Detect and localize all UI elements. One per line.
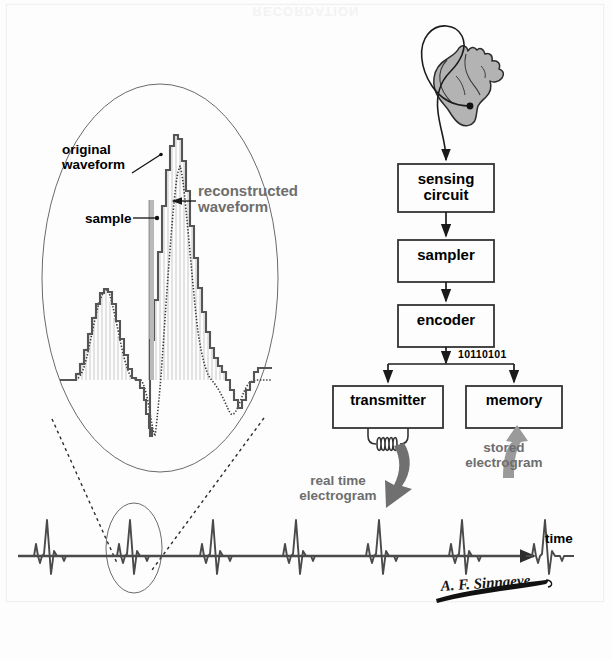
peak-shading <box>150 200 154 380</box>
magnified-waveform-group <box>60 135 272 436</box>
heart-body <box>434 46 504 126</box>
heart-with-lead-icon <box>422 26 504 160</box>
label-bitstream: 10110101 <box>458 349 507 360</box>
lead-tip-electrode <box>467 103 474 110</box>
label-reconstructed-waveform: reconstructed waveform <box>198 183 298 215</box>
selected-beat-ellipse <box>106 503 162 593</box>
electrogram-strip <box>18 520 574 574</box>
label-stored-electrogram: stored electrogram <box>452 441 556 470</box>
label-time-axis: time <box>545 532 573 547</box>
block-label-encoder: encoder <box>400 312 492 328</box>
label-sample: sample <box>85 212 132 227</box>
beat-traces <box>28 520 574 574</box>
signature: A. F. Sinnaeve <box>436 572 552 603</box>
zoom-connector-left <box>52 419 117 563</box>
block-label-sampler: sampler <box>400 247 492 263</box>
leader-original-dot <box>159 153 163 157</box>
leader-sample-dot <box>155 216 159 220</box>
label-real-time-electrogram: real time electrogram <box>282 474 394 503</box>
figure-page: RECORDATION <box>0 0 612 661</box>
reconstructed-waveform-steps <box>60 135 272 436</box>
block-label-transmitter: transmitter <box>336 393 440 409</box>
label-original-waveform: original waveform <box>62 143 125 172</box>
zoom-connector-lines <box>52 418 264 570</box>
block-label-sensing-circuit: sensing circuit <box>400 171 492 203</box>
figure-canvas: A. F. Sinnaeve <box>0 0 612 661</box>
block-label-memory: memory <box>468 393 560 409</box>
leader-original <box>132 155 160 173</box>
zoom-connector-right <box>152 418 264 570</box>
